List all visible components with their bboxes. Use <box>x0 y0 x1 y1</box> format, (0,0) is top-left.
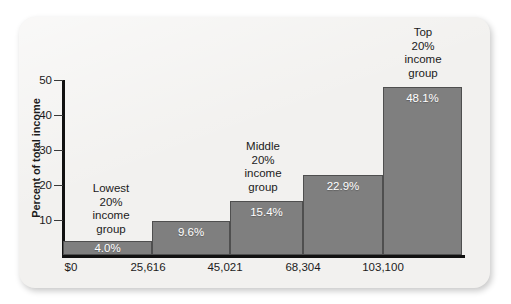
x-tick-label-45021: 45,021 <box>185 262 265 274</box>
annotation-middle-income-group: Middle 20% income group <box>224 140 302 194</box>
x-tick-label-0: $0 <box>31 262 111 274</box>
bar-value-label-top: 48.1% <box>383 93 462 105</box>
bar-value-label-lowest: 4.0% <box>63 243 152 255</box>
bar-value-label-second: 9.6% <box>152 227 230 239</box>
y-tick-label-20: 20 <box>12 180 52 192</box>
bar-value-label-fourth: 22.9% <box>303 181 383 193</box>
y-tick-label-40: 40 <box>12 110 52 122</box>
y-tick-mark-40 <box>54 115 63 116</box>
annotation-lowest-income-group: Lowest 20% income group <box>73 182 149 236</box>
y-tick-mark-20 <box>54 185 63 186</box>
x-tick-label-103100: 103,100 <box>343 262 423 274</box>
y-axis-line <box>62 80 65 258</box>
y-tick-label-30: 30 <box>12 145 52 157</box>
x-tick-label-68304: 68,304 <box>263 262 343 274</box>
y-tick-label-10: 10 <box>12 215 52 227</box>
x-axis-line <box>62 255 465 258</box>
y-tick-label-50: 50 <box>12 75 52 87</box>
annotation-top-income-group: Top 20% income group <box>384 26 462 80</box>
y-tick-mark-50 <box>54 80 63 81</box>
y-tick-mark-10 <box>54 220 63 221</box>
x-tick-label-25616: 25,616 <box>108 262 188 274</box>
bar-chart-plot-area: Percent of total income 50 40 30 20 10 4… <box>0 0 511 304</box>
bar-value-label-middle: 15.4% <box>230 207 303 219</box>
bar-top-20-percent <box>383 87 462 255</box>
y-tick-mark-30 <box>54 150 63 151</box>
